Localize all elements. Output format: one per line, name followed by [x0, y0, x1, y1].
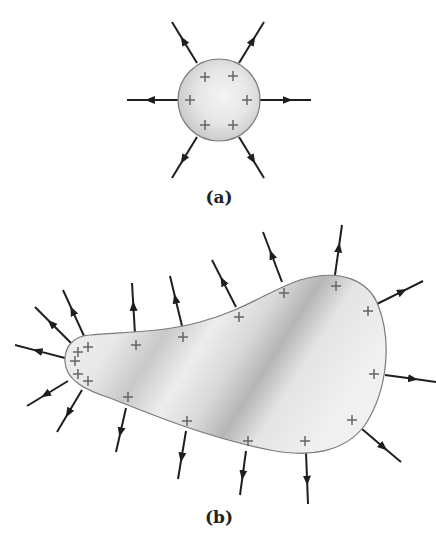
field-line [339, 225, 342, 248]
field-line [15, 345, 38, 351]
irregular-conductor [65, 275, 386, 453]
caption-b: (b) [205, 507, 233, 527]
field-line-arrow [183, 40, 197, 63]
field-line [253, 22, 264, 40]
panel-a [127, 22, 311, 178]
field-line [178, 457, 182, 479]
field-line [212, 260, 223, 281]
field-line [170, 276, 175, 299]
field-line [383, 447, 401, 462]
field-line [253, 160, 264, 178]
field-line [63, 290, 72, 311]
field-line [172, 22, 183, 40]
field-line-arrow [51, 323, 71, 343]
field-line [307, 481, 308, 504]
field-line [263, 232, 272, 255]
field-line [57, 413, 68, 432]
field-line [402, 281, 423, 291]
field-line [132, 283, 133, 306]
field-line-arrow [183, 137, 197, 160]
field-line-arrow [38, 351, 66, 358]
field-line-arrow [133, 306, 135, 334]
field-line-arrow [175, 299, 182, 327]
field-line-arrow [377, 291, 402, 304]
field-line-arrow [243, 451, 246, 475]
field-line-arrow [182, 431, 186, 457]
field-line [35, 307, 51, 323]
field-line-arrow [45, 381, 68, 395]
field-line-arrow [335, 248, 339, 276]
panel-b [15, 225, 436, 504]
field-line-arrow [306, 452, 307, 481]
field-line [413, 379, 436, 382]
field-line-arrow [362, 429, 383, 447]
field-line-arrow [239, 137, 253, 160]
field-line-arrow [272, 255, 282, 283]
caption-a: (a) [205, 187, 232, 207]
field-line-arrow [72, 311, 84, 336]
field-line [27, 395, 45, 406]
field-line [116, 432, 121, 452]
field-line-arrow [239, 40, 253, 63]
field-line-arrow [223, 281, 236, 307]
field-line-arrow [121, 408, 127, 432]
field-line-arrow [385, 375, 413, 379]
field-line [172, 160, 183, 178]
field-line-arrow [68, 390, 82, 413]
electric-field-diagram [0, 0, 436, 533]
field-line [240, 475, 243, 495]
